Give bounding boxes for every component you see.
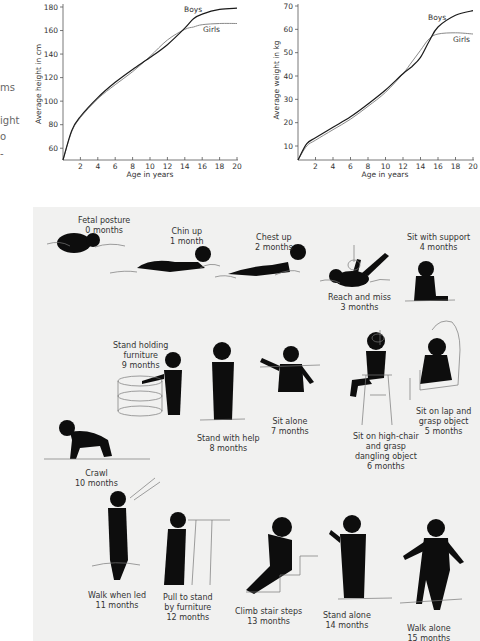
svg-text:16: 16 <box>433 162 443 171</box>
weight-girls-line <box>298 33 473 160</box>
caption-sit-with-support: Sit with support4 months <box>407 233 470 253</box>
weight-x-axis: 2468101214161820 <box>298 157 478 171</box>
caption-chest-up: Chest up2 months <box>255 233 293 253</box>
pull-to-stand-figure <box>164 512 186 585</box>
ground-lines <box>44 242 462 603</box>
height-x-axis: 2468101214161820 <box>63 157 242 171</box>
caption-sit-on-lap: Sit on lap andgrasp object5 months <box>416 407 471 437</box>
climb-stair-steps-figure <box>246 517 292 594</box>
chin-up-figure <box>137 246 211 272</box>
svg-text:140: 140 <box>44 50 59 59</box>
svg-text:4: 4 <box>95 162 100 171</box>
caption-walk-when-led: Walk when led11 months <box>88 591 146 611</box>
svg-text:6: 6 <box>348 162 353 171</box>
svg-text:80: 80 <box>48 120 58 129</box>
caption-pull-to-stand: Pull to standby furniture12 months <box>163 593 213 623</box>
svg-text:70: 70 <box>283 2 293 11</box>
svg-text:160: 160 <box>44 26 59 35</box>
walk-when-led-figure <box>108 491 128 580</box>
weight-y-axis-label: Average weight in kg <box>272 40 281 119</box>
svg-text:14: 14 <box>180 162 190 171</box>
height-x-axis-label: Age in years <box>127 170 174 179</box>
svg-text:18: 18 <box>215 162 225 171</box>
caption-stand-holding-furniture: Stand holdingfurniture9 months <box>113 341 168 371</box>
sit-with-support-figure <box>414 261 448 301</box>
svg-text:60: 60 <box>283 25 293 34</box>
svg-text:14: 14 <box>416 162 426 171</box>
caption-stand-with-help: Stand with help8 months <box>197 434 260 454</box>
walk-alone-figure <box>403 519 464 610</box>
height-boys-label: Boys <box>184 5 202 14</box>
svg-text:10: 10 <box>283 142 293 151</box>
svg-text:20: 20 <box>468 162 478 171</box>
height-y-axis: 6080100120140160180 <box>44 3 63 161</box>
caption-crawl: Crawl10 months <box>75 469 118 489</box>
height-chart: 6080100120140160180 2468101214161820 Ave… <box>0 0 250 190</box>
caption-chin-up: Chin up1 month <box>170 227 204 247</box>
weight-y-axis: 10203040506070 <box>283 2 298 161</box>
height-y-axis-label: Average height in cm <box>34 44 43 124</box>
caption-stand-alone: Stand alone14 months <box>323 611 371 631</box>
milestone-illustrations <box>33 207 480 641</box>
stand-with-help-figure <box>212 342 234 420</box>
caption-sit-alone: Sit alone7 months <box>271 417 309 437</box>
weight-girls-label: Girls <box>453 35 470 44</box>
svg-text:120: 120 <box>44 73 59 82</box>
svg-text:50: 50 <box>283 48 293 57</box>
caption-fetal-posture: Fetal posture0 months <box>78 216 130 236</box>
caption-sit-on-high-chair: Sit on high-chairand graspdangling objec… <box>353 432 419 472</box>
height-girls-label: Girls <box>203 25 220 34</box>
svg-text:16: 16 <box>197 162 207 171</box>
sit-on-lap-figure <box>420 338 452 384</box>
svg-text:4: 4 <box>331 162 336 171</box>
stand-alone-figure <box>329 515 366 598</box>
motor-milestones-panel: Fetal posture0 months Chin up1 month Che… <box>33 207 480 641</box>
weight-chart: 10203040506070 2468101214161820 Average … <box>240 0 480 190</box>
svg-text:180: 180 <box>44 3 59 12</box>
sit-alone-figure <box>260 346 314 392</box>
caption-climb-stair-steps: Climb stair steps13 months <box>235 607 302 627</box>
svg-text:2: 2 <box>78 162 83 171</box>
svg-text:6: 6 <box>113 162 118 171</box>
svg-text:30: 30 <box>283 95 293 104</box>
svg-text:18: 18 <box>451 162 461 171</box>
weight-boys-label: Boys <box>428 13 446 22</box>
svg-text:40: 40 <box>283 72 293 81</box>
svg-text:60: 60 <box>48 144 58 153</box>
caption-walk-alone: Walk alone15 months <box>407 624 451 641</box>
svg-text:20: 20 <box>283 118 293 127</box>
svg-text:100: 100 <box>44 97 59 106</box>
svg-text:2: 2 <box>313 162 318 171</box>
weight-x-axis-label: Age in years <box>362 170 409 179</box>
caption-reach-and-miss: Reach and miss3 months <box>328 293 391 313</box>
crawl-figure <box>59 420 112 459</box>
height-girls-line <box>63 23 237 160</box>
